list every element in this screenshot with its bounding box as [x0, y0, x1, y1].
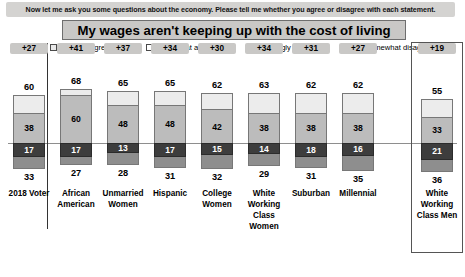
- segment-somewhat-disagree: [421, 160, 453, 172]
- segment-strongly-agree: [154, 91, 186, 105]
- net-score-badge: +19: [418, 43, 456, 54]
- stacked-bar: 6017: [60, 89, 92, 165]
- category-label: Unmarried Women: [97, 188, 149, 210]
- total-agree-label: 55: [414, 86, 460, 96]
- total-disagree-label: 28: [100, 168, 146, 178]
- chart-column: +1955332136White Working Class Men: [414, 56, 460, 277]
- segment-somewhat-disagree: [248, 154, 280, 166]
- segment-strongly-disagree: 18: [295, 143, 327, 157]
- stacked-bar: 3814: [248, 93, 280, 167]
- chart-column: +4168601727African American: [53, 56, 99, 277]
- category-label: College Women: [191, 188, 243, 210]
- total-agree-label: 68: [53, 76, 99, 86]
- segment-somewhat-agree: 38: [295, 113, 327, 143]
- total-disagree-label: 31: [147, 171, 193, 181]
- net-score-badge: +27: [339, 43, 377, 54]
- segment-somewhat-agree: 38: [342, 113, 374, 143]
- net-score-badge: +41: [57, 43, 95, 54]
- chart-column: +3162381831Suburban: [288, 56, 334, 277]
- segment-somewhat-agree: 42: [201, 109, 233, 143]
- segment-somewhat-disagree: [60, 157, 92, 165]
- segment-somewhat-agree: 48: [107, 105, 139, 143]
- legend-marker-icon: [50, 44, 57, 51]
- segment-strongly-disagree: 13: [107, 143, 139, 153]
- segment-somewhat-agree: 38: [248, 113, 280, 143]
- segment-strongly-disagree: 16: [342, 143, 374, 156]
- total-agree-label: 60: [6, 82, 52, 92]
- total-agree-label: 63: [241, 80, 287, 90]
- chart-column: +3463381429White Working Class Women: [241, 56, 287, 277]
- total-agree-label: 62: [288, 80, 334, 90]
- segment-strongly-agree: [107, 91, 139, 105]
- net-score-badge: +31: [292, 43, 330, 54]
- total-disagree-label: 29: [241, 169, 287, 179]
- total-agree-label: 65: [100, 78, 146, 88]
- stacked-bar: 4813: [107, 91, 139, 165]
- chart-column: +3465481731Hispanic: [147, 56, 193, 277]
- total-disagree-label: 27: [53, 168, 99, 178]
- segment-somewhat-disagree: [295, 157, 327, 167]
- stacked-bar: 3817: [13, 95, 45, 169]
- stacked-bar: 4215: [201, 93, 233, 168]
- category-label: White Working Class Women: [238, 188, 290, 232]
- segment-strongly-agree: [248, 93, 280, 113]
- segment-strongly-agree: [201, 93, 233, 109]
- chart-column: +2762381635Millennial: [335, 56, 381, 277]
- segment-strongly-agree: [342, 93, 374, 112]
- chart-title: My wages aren't keeping up with the cost…: [77, 23, 390, 38]
- total-agree-label: 65: [147, 78, 193, 88]
- segment-somewhat-disagree: [154, 157, 186, 168]
- survey-question-banner: Now let me ask you some questions about …: [6, 2, 455, 17]
- segment-somewhat-disagree: [107, 153, 139, 165]
- segment-strongly-disagree: 14: [248, 143, 280, 154]
- stacked-bar: 3321: [421, 99, 453, 172]
- category-label: Hispanic: [144, 188, 196, 199]
- total-agree-label: 62: [194, 80, 240, 90]
- chart-column: +27603817332018 Voter: [6, 56, 52, 277]
- segment-strongly-disagree: 17: [154, 143, 186, 157]
- segment-somewhat-agree: 33: [421, 117, 453, 143]
- segment-strongly-disagree: 15: [201, 143, 233, 155]
- segment-strongly-disagree: 17: [13, 143, 45, 157]
- total-disagree-label: 31: [288, 171, 334, 181]
- net-score-badge: +34: [151, 43, 189, 54]
- chart-title-bar: My wages aren't keeping up with the cost…: [62, 20, 406, 40]
- segment-strongly-agree: [421, 99, 453, 117]
- category-label: 2018 Voter: [3, 188, 55, 199]
- survey-question-text: Now let me ask you some questions about …: [26, 6, 436, 14]
- total-disagree-label: 35: [335, 174, 381, 184]
- segment-somewhat-disagree: [342, 156, 374, 171]
- segment-strongly-disagree: 17: [60, 143, 92, 157]
- chart-root: Now let me ask you some questions about …: [0, 0, 465, 277]
- category-label: White Working Class Men: [411, 188, 463, 221]
- category-label: Suburban: [285, 188, 337, 199]
- chart-column: +3765481328Unmarried Women: [100, 56, 146, 277]
- segment-somewhat-agree: 60: [60, 95, 92, 143]
- segment-somewhat-agree: 38: [13, 113, 45, 143]
- segment-somewhat-disagree: [201, 155, 233, 169]
- stacked-bar: 3818: [295, 93, 327, 167]
- total-disagree-label: 32: [194, 172, 240, 182]
- category-label: Millennial: [332, 188, 384, 199]
- net-score-badge: +27: [10, 43, 48, 54]
- total-agree-label: 62: [335, 80, 381, 90]
- segment-strongly-agree: [295, 93, 327, 112]
- segment-strongly-agree: [13, 95, 45, 113]
- net-score-badge: +34: [245, 43, 283, 54]
- chart-column: +3062421532College Women: [194, 56, 240, 277]
- segment-somewhat-agree: 48: [154, 105, 186, 143]
- segment-somewhat-disagree: [13, 157, 45, 170]
- total-disagree-label: 33: [6, 172, 52, 182]
- net-score-badge: +30: [198, 43, 236, 54]
- stacked-bar: 4817: [154, 91, 186, 168]
- chart-plot-area: +27603817332018 Voter+4168601727African …: [0, 56, 465, 277]
- stacked-bar: 3816: [342, 93, 374, 171]
- net-score-badge: +37: [104, 43, 142, 54]
- category-label: African American: [50, 188, 102, 210]
- segment-strongly-disagree: 21: [421, 143, 453, 160]
- total-disagree-label: 36: [414, 175, 460, 185]
